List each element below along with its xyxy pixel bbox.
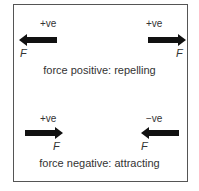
bottom-left-sign-label: +ve bbox=[40, 113, 56, 124]
arrow-left-icon bbox=[19, 34, 59, 46]
arrow-right-icon bbox=[146, 34, 186, 46]
arrow-left-icon bbox=[139, 127, 179, 139]
top-right-sign-label: +ve bbox=[146, 18, 162, 29]
top-left-sign-label: +ve bbox=[40, 18, 56, 29]
bottom-left-force-label: F bbox=[53, 140, 60, 152]
caption-attracting: force negative: attracting bbox=[0, 157, 199, 169]
top-left-force-label: F bbox=[20, 47, 27, 59]
top-right-force-label: F bbox=[176, 47, 183, 59]
diagram-frame bbox=[13, 4, 188, 182]
bottom-right-sign-label: −ve bbox=[146, 113, 162, 124]
bottom-right-force-label: F bbox=[141, 140, 148, 152]
caption-repelling: force positive: repelling bbox=[0, 64, 199, 76]
arrow-right-icon bbox=[25, 127, 65, 139]
